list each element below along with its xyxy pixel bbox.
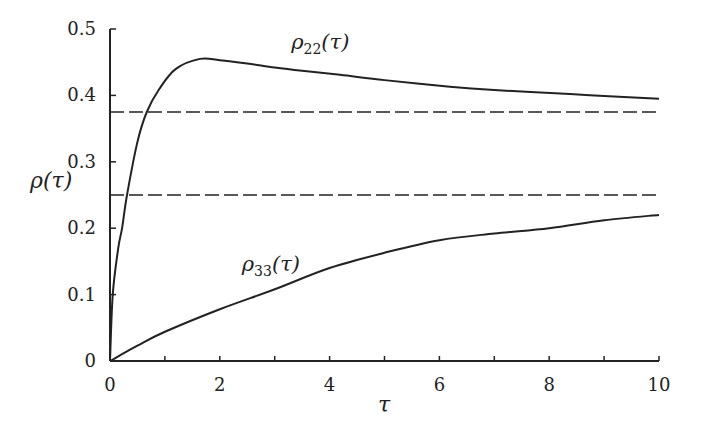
- y-tick-label: 0.1: [67, 284, 96, 305]
- y-axis-title: ρ(τ): [29, 168, 72, 193]
- x-tick-label: 4: [324, 374, 335, 395]
- x-tick-label: 0: [104, 374, 115, 395]
- curve-labels: ρ22(τ)ρ33(τ): [241, 30, 350, 279]
- x-tick-label: 2: [214, 374, 225, 395]
- series--22-: [110, 58, 659, 361]
- y-tick-label: 0.5: [67, 18, 96, 39]
- x-tick-label: 8: [543, 374, 554, 395]
- x-tick-label: 6: [434, 374, 445, 395]
- curve-label-33: ρ33(τ): [241, 252, 300, 279]
- tick-labels: 00.10.20.30.40.50246810: [67, 18, 670, 395]
- series--33-: [110, 215, 659, 361]
- y-tick-label: 0.2: [67, 217, 96, 238]
- chart: 00.10.20.30.40.50246810 ρ22(τ)ρ33(τ) ρ(τ…: [0, 0, 704, 430]
- series-lines: [110, 58, 659, 361]
- x-axis-title: τ: [378, 392, 391, 417]
- y-tick-label: 0.4: [67, 84, 96, 105]
- x-tick-label: 10: [648, 374, 671, 395]
- y-tick-label: 0: [85, 350, 96, 371]
- curve-label-22: ρ22(τ): [290, 30, 349, 57]
